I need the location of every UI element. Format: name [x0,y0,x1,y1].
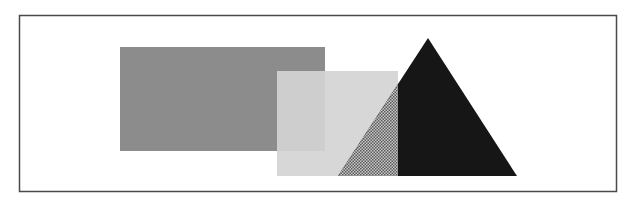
figure-canvas [0,0,640,203]
